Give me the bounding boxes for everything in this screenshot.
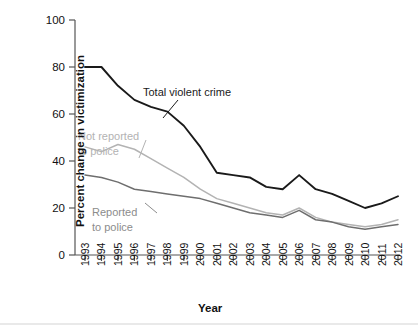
y-tick-label: 20	[52, 202, 65, 214]
x-tick-label: 2005	[277, 242, 289, 266]
x-tick-label: 1994	[95, 242, 107, 266]
series-group	[85, 67, 398, 229]
x-axis-title: Year	[198, 302, 222, 314]
x-tick-label: 2008	[326, 242, 338, 266]
x-tick-label: 1999	[178, 242, 190, 266]
x-tick-label: 1997	[145, 242, 157, 266]
x-tick-label: 1996	[128, 242, 140, 266]
x-tick-label: 1995	[112, 242, 124, 266]
x-tick-label: 2011	[376, 243, 388, 266]
annotation-not-reported-line1: Not reported	[78, 130, 139, 142]
x-tick-label: 2012	[392, 242, 404, 266]
x-tick-label: 2001	[211, 242, 223, 266]
y-tick-group: 020406080100	[46, 14, 75, 261]
y-tick-label: 60	[52, 108, 65, 120]
y-axis-title: Percent change in victimization	[74, 55, 86, 227]
x-tick-label: 2002	[227, 242, 239, 266]
x-tick-label: 1998	[161, 242, 173, 266]
y-tick-label: 100	[46, 14, 65, 26]
line-chart-svg: 020406080100 199319941995199619971998199…	[0, 0, 418, 326]
chart-figure: Percent change in victimization Year 020…	[0, 0, 418, 326]
y-tick-label: 40	[52, 155, 65, 167]
y-tick-label: 0	[59, 249, 65, 261]
x-tick-label: 2009	[343, 242, 355, 266]
annotation-reported-line1: Reported	[92, 206, 137, 218]
bottom-divider	[0, 323, 418, 325]
x-tick-label: 2004	[260, 242, 272, 266]
annotation-total-violent-crime: Total violent crime	[143, 86, 231, 98]
annotation-reported-line2: to police	[92, 221, 133, 233]
leader-line-reported	[145, 203, 157, 213]
x-tick-group: 1993199419951996199719981999200020012002…	[79, 242, 404, 266]
x-tick-label: 2003	[244, 242, 256, 266]
x-tick-label: 2010	[359, 242, 371, 266]
x-tick-label: 1993	[79, 242, 91, 266]
x-tick-label: 2006	[293, 242, 305, 266]
x-tick-label: 2000	[194, 242, 206, 266]
x-tick-label: 2007	[310, 242, 322, 266]
y-tick-label: 80	[52, 61, 65, 73]
